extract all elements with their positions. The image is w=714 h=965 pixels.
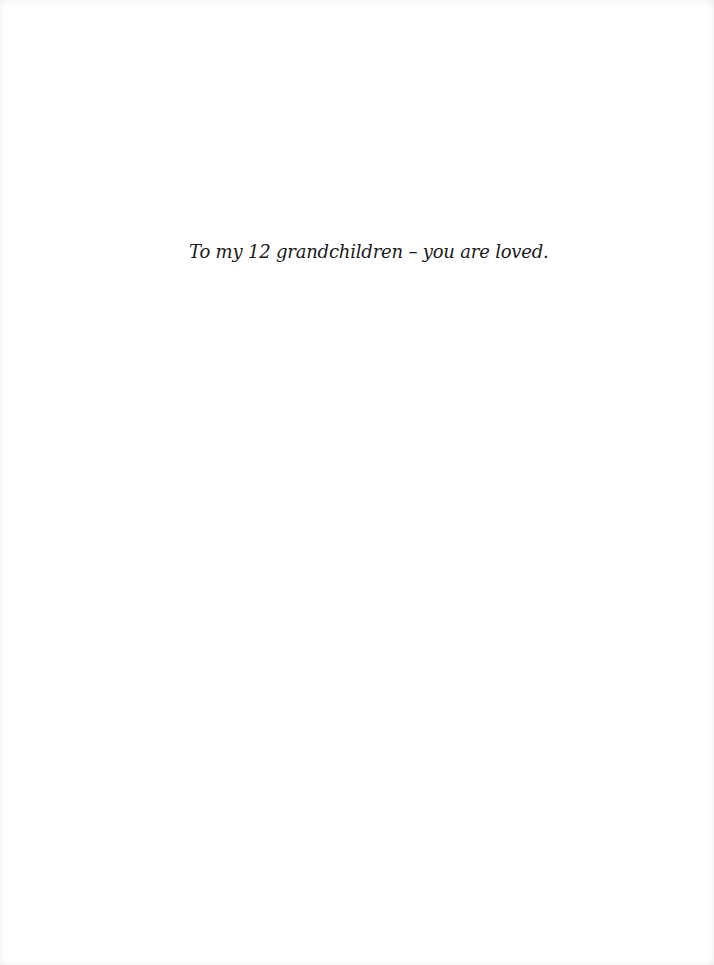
book-page: To my 12 grandchildren – you are loved. bbox=[0, 0, 714, 965]
dedication-text: To my 12 grandchildren – you are loved. bbox=[189, 238, 549, 266]
